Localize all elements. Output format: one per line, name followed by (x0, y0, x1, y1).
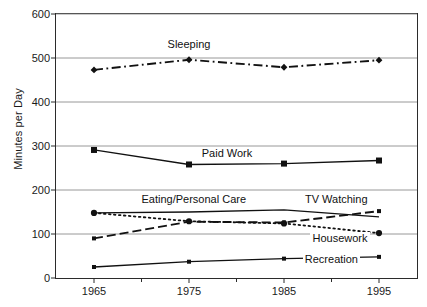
data-point-marker (377, 255, 381, 259)
data-point-marker (377, 209, 381, 213)
data-point-marker (91, 147, 97, 153)
y-axis-title: Minutes per Day (12, 59, 24, 199)
data-point-marker (186, 56, 193, 63)
data-point-marker (92, 236, 96, 240)
data-point-marker (91, 66, 98, 73)
data-point-marker (282, 257, 286, 261)
y-axis-tick-label: 0 (16, 272, 50, 284)
series-annotation: Housework (310, 232, 369, 244)
x-axis-tick-label: 1975 (177, 285, 201, 297)
x-axis-tick-label: 1965 (82, 285, 106, 297)
data-point-marker (281, 64, 288, 71)
x-axis-tick-label: 1985 (272, 285, 296, 297)
series-annotation: Sleeping (166, 38, 213, 50)
y-axis-tick-label: 300 (16, 140, 50, 152)
data-point-marker (281, 220, 287, 226)
data-point-marker (281, 161, 287, 167)
y-axis-tick-label: 500 (16, 52, 50, 64)
series-annotation: TV Watching (303, 193, 370, 205)
series-annotation: Paid Work (200, 147, 255, 159)
data-point-marker (92, 265, 96, 269)
y-axis-tick-label: 400 (16, 96, 50, 108)
data-point-marker (376, 158, 382, 164)
data-point-marker (91, 210, 97, 216)
series-annotation: Eating/Personal Care (139, 193, 248, 205)
data-point-marker (187, 260, 191, 264)
data-point-marker (186, 218, 192, 224)
y-axis-tick-label: 200 (16, 184, 50, 196)
y-axis-tick-label: 600 (16, 8, 50, 20)
data-point-marker (376, 230, 382, 236)
x-axis-tick-label: 1995 (367, 285, 391, 297)
series-annotation: Recreation (303, 253, 360, 265)
series-line-sleeping (94, 60, 379, 70)
line-chart: Minutes per Day 010020030040050060019651… (0, 0, 427, 307)
data-point-marker (186, 161, 192, 167)
plot-area: 01002003004005006001965197519851995Sleep… (55, 13, 418, 279)
y-axis-tick-label: 100 (16, 228, 50, 240)
series-line-eating-personal-care (94, 210, 379, 217)
